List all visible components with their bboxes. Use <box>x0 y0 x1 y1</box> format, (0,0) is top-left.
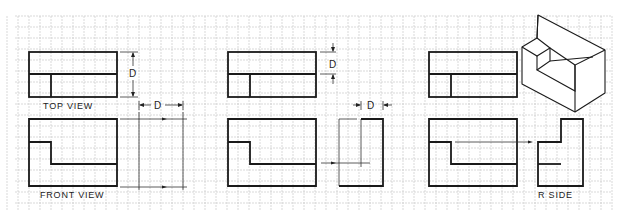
isometric-view <box>522 15 605 112</box>
front-view-3 <box>429 119 533 186</box>
depth-dimension-vertical-1: D <box>120 52 138 97</box>
depth-dimension-horizontal-1: D <box>139 100 183 111</box>
dimension-d-label: D <box>329 59 336 70</box>
right-side-label: R SIDE <box>538 190 573 200</box>
dimension-d-label: D <box>367 100 374 111</box>
grid-paper <box>7 16 612 210</box>
panel-2: D D <box>228 43 392 186</box>
top-view-3 <box>429 52 517 97</box>
top-view-label: TOP VIEW <box>43 101 93 111</box>
dimension-d-label: D <box>129 68 136 79</box>
side-view-construction-2 <box>321 119 383 186</box>
dimension-d-label: D <box>154 100 161 111</box>
projection-lines-1 <box>120 112 187 190</box>
front-view-label: FRONT VIEW <box>40 190 104 200</box>
front-view-2 <box>228 119 316 186</box>
top-view-2 <box>228 52 316 97</box>
panel-3: R SIDE <box>429 15 605 200</box>
right-side-view <box>538 119 583 186</box>
orthographic-drawing: TOP VIEW D D <box>0 0 623 218</box>
